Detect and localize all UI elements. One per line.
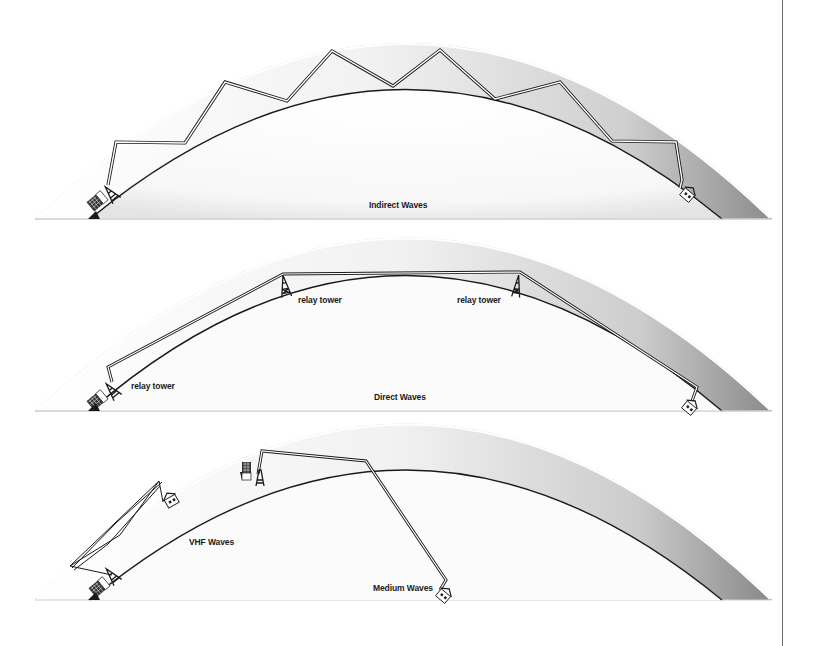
- relay-tower-label-mid-right: relay tower: [457, 295, 501, 305]
- caption-medium-waves: Medium Waves: [373, 583, 433, 593]
- caption-vhf-waves: VHF Waves: [189, 537, 234, 547]
- caption-direct-waves: Direct Waves: [374, 392, 426, 402]
- relay-tower-label-mid-left: relay tower: [298, 295, 342, 305]
- indirect-waves-diagram: [0, 0, 782, 225]
- relay-tower-label-left: relay tower: [131, 381, 175, 391]
- panel-medium-waves: VHF Waves Medium Waves: [0, 420, 782, 610]
- direct-waves-diagram: [0, 225, 782, 420]
- caption-indirect-waves: Indirect Waves: [369, 200, 427, 210]
- medium-waves-diagram: [0, 420, 782, 610]
- panel-direct-waves: relay tower relay tower relay tower Dire…: [0, 225, 782, 420]
- page-right-border: [782, 0, 783, 646]
- panel-indirect-waves: Indirect Waves: [0, 0, 782, 225]
